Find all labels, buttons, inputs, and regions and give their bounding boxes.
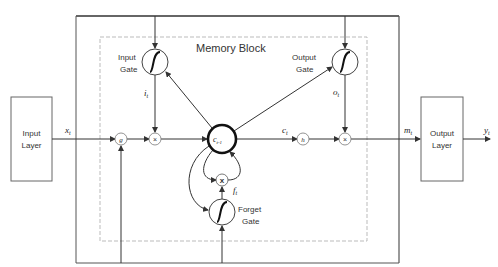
- svg-text:Forget: Forget: [238, 205, 262, 214]
- svg-text:×: ×: [153, 136, 157, 143]
- svg-text:Input: Input: [118, 53, 137, 62]
- h-squash-node: h: [297, 133, 309, 145]
- svg-text:Gate: Gate: [120, 65, 138, 74]
- svg-text:h: h: [301, 136, 305, 144]
- output-gate: Output Gate ot: [292, 49, 358, 98]
- output-layer-box: Output Layer: [421, 97, 463, 181]
- svg-text:Output: Output: [430, 129, 455, 138]
- svg-text:Layer: Layer: [21, 141, 41, 150]
- signal-c: ct: [282, 125, 288, 136]
- memory-block-title: Memory Block: [196, 42, 266, 54]
- memory-cell: ct-1: [208, 125, 236, 153]
- svg-text:ft: ft: [233, 185, 238, 196]
- forget-multiply-node: x: [216, 174, 228, 186]
- signal-y: yt: [483, 125, 490, 136]
- input-gate: Input Gate it: [118, 49, 168, 99]
- forget-gate: Forget Gate ft: [209, 185, 262, 226]
- svg-text:Layer: Layer: [432, 141, 452, 150]
- svg-text:×: ×: [343, 136, 347, 143]
- input-layer-box: Input Layer: [11, 97, 52, 181]
- svg-text:ot: ot: [333, 87, 340, 98]
- svg-text:Gate: Gate: [296, 65, 314, 74]
- svg-text:g: g: [119, 136, 123, 144]
- svg-text:Gate: Gate: [242, 217, 260, 226]
- signal-x: xt: [64, 125, 71, 136]
- svg-text:Input: Input: [23, 129, 42, 138]
- svg-text:it: it: [144, 88, 149, 99]
- svg-text:Output: Output: [292, 53, 317, 62]
- g-squash-node: g: [115, 133, 127, 145]
- svg-text:x: x: [220, 176, 225, 185]
- output-multiply-node: ×: [339, 133, 351, 145]
- signal-m: mt: [404, 125, 413, 136]
- input-multiply-node: ×: [149, 133, 161, 145]
- lstm-diagram: Memory Block Input Layer Output Layer In…: [0, 0, 498, 267]
